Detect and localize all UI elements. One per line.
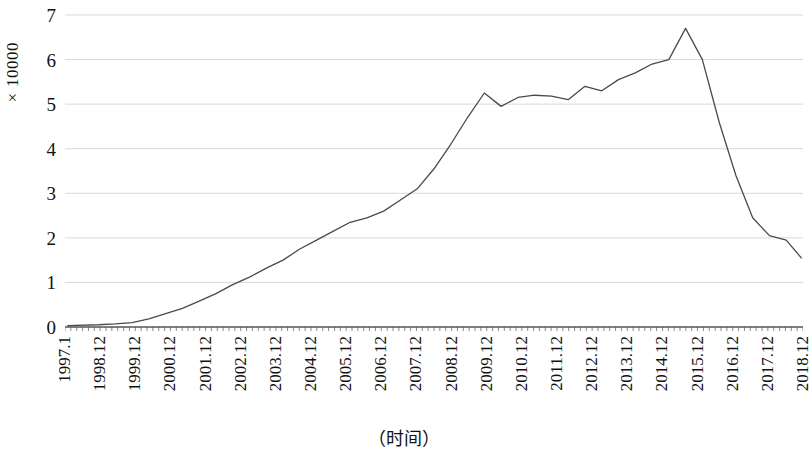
y-axis-tick-label: 4 [47, 139, 57, 158]
x-axis-tick-label: 2005.12 [337, 336, 354, 391]
x-axis-tick-label: 2014.12 [653, 336, 670, 391]
y-axis-tick-label: 6 [47, 50, 57, 69]
y-axis-title: ×10000 [0, 0, 26, 330]
x-axis-tick-label: 2013.12 [618, 336, 635, 391]
x-axis-tick-label: 2016.12 [724, 336, 741, 391]
x-axis-tick-label: 2007.12 [407, 336, 424, 391]
x-axis-title: （时间） [0, 424, 808, 450]
plot-area [65, 8, 803, 334]
x-axis-tick-label: 2008.12 [443, 336, 460, 391]
y-axis-tick-labels: 01234567 [26, 0, 64, 340]
x-axis-tick-label: 2004.12 [302, 336, 319, 391]
y-axis-tick-label: 0 [47, 318, 57, 337]
gridlines [65, 15, 803, 282]
y-axis-title-text: ×10000 [3, 42, 23, 107]
x-axis-tick-label: 2000.12 [161, 336, 178, 391]
x-axis-tick-label: 2001.12 [197, 336, 214, 391]
x-axis-tick-label: 1999.12 [126, 336, 143, 391]
y-axis-tick-label: 1 [47, 273, 57, 292]
x-axis-tick-label: 2009.12 [478, 336, 495, 391]
x-axis-tick-label: 2015.12 [689, 336, 706, 391]
x-axis-tick-label: 2002.12 [232, 336, 249, 391]
x-axis-tick-label: 1998.12 [91, 336, 108, 391]
y-axis-tick-label: 7 [47, 6, 57, 25]
y-axis-tick-label: 3 [47, 184, 57, 203]
x-axis-tick-label: 2017.12 [759, 336, 776, 391]
x-axis-tick-label: 1997.1 [56, 336, 73, 383]
data-series-line [68, 28, 802, 325]
y-axis-tick-label: 2 [47, 228, 57, 247]
x-axis-tick-label: 2010.12 [513, 336, 530, 391]
x-axis-tick-label: 2006.12 [372, 336, 389, 391]
x-axis-tick-label: 2012.12 [583, 336, 600, 391]
x-axis-tick-label: 2018.12 [794, 336, 811, 391]
plot-svg [65, 8, 803, 334]
x-axis-tick-labels: 1997.11998.121999.122000.122001.122002.1… [65, 336, 803, 424]
x-axis-tick-label: 2011.12 [548, 336, 565, 391]
y-axis-tick-label: 5 [47, 95, 57, 114]
x-axis-tick-label: 2003.12 [267, 336, 284, 391]
